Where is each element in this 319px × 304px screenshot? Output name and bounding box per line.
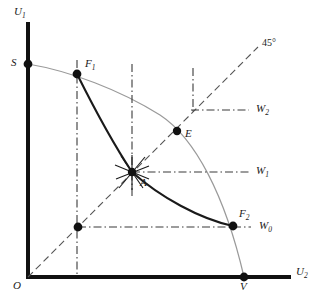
utility-frontier-diagram: U1 U2 O 45° S F1 A E F2 V W2 W1 W0 — [0, 0, 319, 304]
axes-group — [26, 22, 291, 277]
diagonal-label-45deg: 45° — [262, 38, 276, 48]
points-group — [24, 60, 249, 282]
axis-label-u1: U1 — [14, 6, 26, 20]
point-label-s: S — [11, 57, 17, 68]
welfare-label-w0: W0 — [259, 220, 272, 234]
point-label-a: A — [140, 177, 147, 188]
point-e[interactable] — [173, 127, 181, 135]
axis-label-u2: U2 — [296, 266, 308, 280]
welfare-label-w1: W1 — [256, 165, 269, 179]
point-f2[interactable] — [229, 222, 238, 231]
point-f1[interactable] — [73, 70, 82, 79]
point-label-f1: F1 — [85, 58, 95, 72]
origin-label: O — [13, 280, 21, 291]
point-s[interactable] — [24, 60, 33, 69]
point-a[interactable] — [128, 168, 136, 176]
welfare-lines-group — [78, 110, 251, 227]
point-label-e: E — [185, 128, 192, 139]
forty-five-degree-line — [28, 47, 258, 277]
point-label-f2: F2 — [239, 208, 249, 222]
point-label-v: V — [240, 281, 247, 292]
point-w0-diagonal[interactable] — [74, 223, 83, 232]
welfare-label-w2: W2 — [256, 103, 269, 117]
